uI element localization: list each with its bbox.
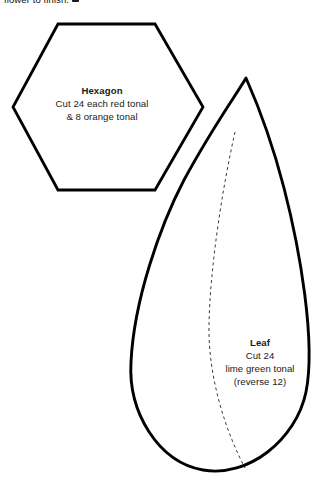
template-artboard bbox=[0, 0, 324, 489]
hexagon-outline bbox=[13, 24, 203, 190]
pattern-page: flower to finish. Hexagon Cut 24 each re… bbox=[0, 0, 324, 489]
